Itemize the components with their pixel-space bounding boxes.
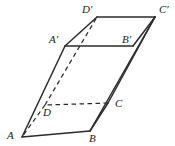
vertex-label-A: A xyxy=(7,130,14,141)
hidden-edges-group xyxy=(22,17,108,137)
geometry-figure: ABCDA′B′C′D′ xyxy=(0,0,175,146)
edge-D-A xyxy=(22,105,45,137)
visible-edges-group xyxy=(22,17,155,137)
vertex-label-C: C xyxy=(115,98,122,109)
edge-Dp-Ap xyxy=(65,17,97,46)
vertex-label-C-prime: C′ xyxy=(159,4,169,15)
vertex-label-D-prime: D′ xyxy=(82,4,92,15)
edge-C-D xyxy=(45,103,108,105)
parallelepiped-svg xyxy=(0,0,175,146)
edge-A-B xyxy=(22,131,90,137)
vertex-label-B: B xyxy=(89,133,96,144)
vertex-label-D: D xyxy=(43,107,51,118)
edge-D-Dp xyxy=(45,17,97,105)
vertex-label-B-prime: B′ xyxy=(122,34,131,45)
edge-C-Cp xyxy=(108,17,155,103)
vertex-label-A-prime: A′ xyxy=(49,34,58,45)
edge-A-Ap xyxy=(22,46,65,137)
